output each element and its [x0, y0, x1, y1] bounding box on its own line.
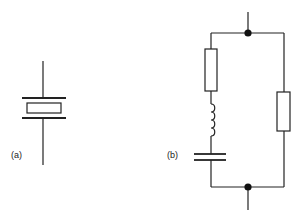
crystal-symbol	[22, 61, 66, 165]
label-a: (a)	[11, 150, 22, 160]
equivalent-circuit	[194, 12, 290, 210]
series-resistor	[205, 49, 217, 91]
crystal-body	[27, 103, 61, 113]
bottom-node-dot	[244, 183, 251, 190]
parallel-resistor	[277, 92, 290, 131]
inductor	[211, 104, 215, 136]
label-b: (b)	[167, 150, 178, 160]
top-node-dot	[244, 29, 251, 36]
circuit-diagram	[0, 0, 305, 217]
